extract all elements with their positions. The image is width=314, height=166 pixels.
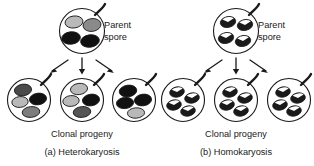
clonal-progeny-label-a: Clonal progeny [51,129,113,139]
heterokaryosis-homokaryosis-figure: Parent spore [0,0,314,166]
parent-spore-label-line1: Parent [104,20,132,30]
clonal-progeny-label-b: Clonal progeny [205,129,267,139]
parent-spore-label-line2: spore [258,32,281,42]
parent-spore-label-line1: Parent [258,20,286,30]
spore-wall [214,9,259,54]
parent-spore-label-line2: spore [104,32,127,42]
panel-caption-b: (b) Homokaryosis [200,147,272,157]
figure-canvas: Parent spore [0,0,314,166]
panel-caption-a: (a) Heterokaryosis [44,147,119,157]
spore-wall [60,9,105,54]
